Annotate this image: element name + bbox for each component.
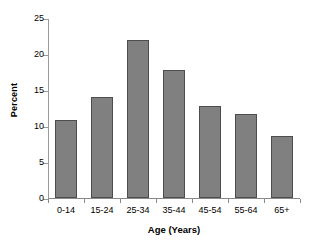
x-axis-tick-mark: [156, 199, 157, 203]
bar-65+: [271, 136, 293, 198]
x-axis-label-15-24: 15-24: [84, 204, 120, 216]
x-axis-title: Age (Years): [48, 224, 300, 235]
bar-25-34: [127, 40, 149, 198]
plot-area: 0510152025: [48, 19, 300, 199]
x-axis-label-25-34: 25-34: [120, 204, 156, 216]
y-axis-tick-label: 20: [34, 49, 44, 60]
y-axis-tick-label: 5: [39, 157, 44, 168]
x-axis-label-0-14: 0-14: [48, 204, 84, 216]
bars-layer: [48, 19, 300, 199]
x-axis-label-65+: 65+: [264, 204, 300, 216]
y-axis-title-text: Percent: [9, 82, 19, 116]
x-axis-tick-mark: [264, 199, 265, 203]
y-axis-title: Percent: [2, 0, 26, 199]
y-axis-tick-label: 25: [34, 13, 44, 24]
bar-15-24: [91, 97, 113, 198]
x-axis-label-35-44: 35-44: [156, 204, 192, 216]
x-axis-tick-mark: [228, 199, 229, 203]
y-axis-tick-label: 15: [34, 85, 44, 96]
y-axis-tick-label: 0: [39, 193, 44, 204]
x-axis-label-45-54: 45-54: [192, 204, 228, 216]
x-axis-tick-mark: [192, 199, 193, 203]
x-axis-tick-mark: [120, 199, 121, 203]
x-axis-labels: 0-1415-2425-3435-4445-5455-6465+: [48, 204, 300, 218]
x-axis-tick-mark: [48, 199, 49, 203]
x-axis-tick-mark: [84, 199, 85, 203]
bar-55-64: [235, 114, 257, 198]
bar-0-14: [55, 120, 77, 198]
bar-35-44: [163, 70, 185, 198]
x-axis-tick-mark: [300, 199, 301, 203]
bar-chart: Percent 0510152025 0-1415-2425-3435-4445…: [0, 0, 313, 251]
y-axis-tick-label: 10: [34, 121, 44, 132]
x-axis-label-55-64: 55-64: [228, 204, 264, 216]
bar-45-54: [199, 106, 221, 198]
